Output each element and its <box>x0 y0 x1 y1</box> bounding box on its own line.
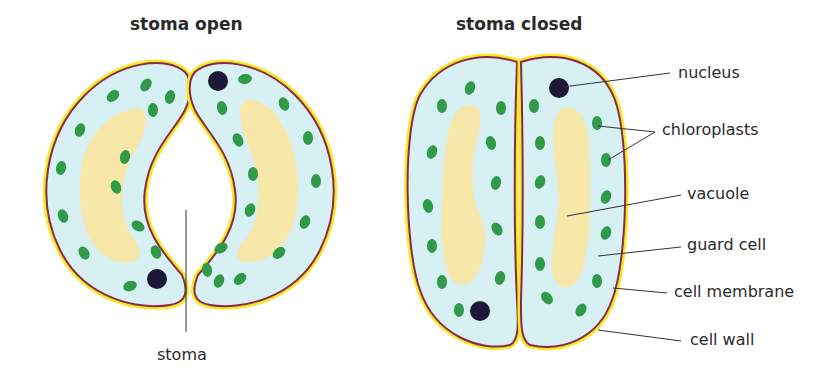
label-vacuole: vacuole <box>687 184 749 203</box>
nucleus-icon <box>549 78 569 98</box>
nucleus-icon <box>147 269 167 289</box>
nucleus-icon <box>470 301 490 321</box>
label-nucleus: nucleus <box>678 63 740 82</box>
label-chloroplasts: chloroplasts <box>662 120 759 139</box>
label-stoma: stoma <box>157 345 207 364</box>
label-guard-cell: guard cell <box>687 235 766 254</box>
label-cell-membrane: cell membrane <box>674 282 794 301</box>
label-cell-wall: cell wall <box>690 330 754 349</box>
nucleus-icon <box>208 71 228 91</box>
